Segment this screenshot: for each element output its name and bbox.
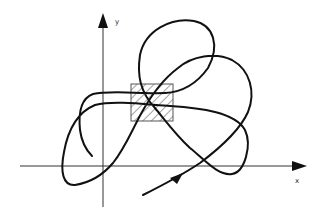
x-axis-label: x	[295, 177, 299, 185]
direction-arrow-icon	[170, 173, 183, 184]
y-axis	[98, 13, 108, 207]
y-axis-arrow-icon	[98, 13, 108, 28]
x-axis-arrow-icon	[292, 161, 307, 171]
hatched-region	[131, 84, 173, 121]
y-axis-label: y	[115, 18, 119, 26]
diagram: y x	[0, 0, 323, 214]
